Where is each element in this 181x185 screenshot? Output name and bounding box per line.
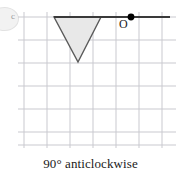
centre-of-rotation-label: O <box>119 17 128 32</box>
grid-horizontal-lines <box>18 17 176 145</box>
grid-lines <box>18 12 176 148</box>
figure-caption: 90° anticlockwise <box>0 156 181 172</box>
centre-of-rotation-point <box>128 14 135 21</box>
figure-panel: c O <box>0 0 181 185</box>
